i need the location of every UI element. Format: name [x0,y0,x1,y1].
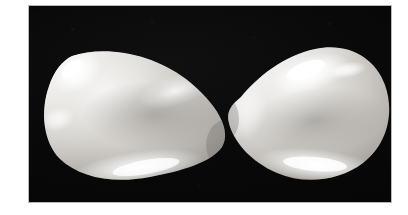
photo-frame [28,5,392,203]
egg-right-tip-shading [203,95,239,143]
egg-right [207,37,392,193]
image-caption: Two pale eggs resting on a black backgro… [0,0,1,1]
egg-left [42,47,226,187]
figure-root: Two pale eggs resting on a black backgro… [0,0,408,215]
